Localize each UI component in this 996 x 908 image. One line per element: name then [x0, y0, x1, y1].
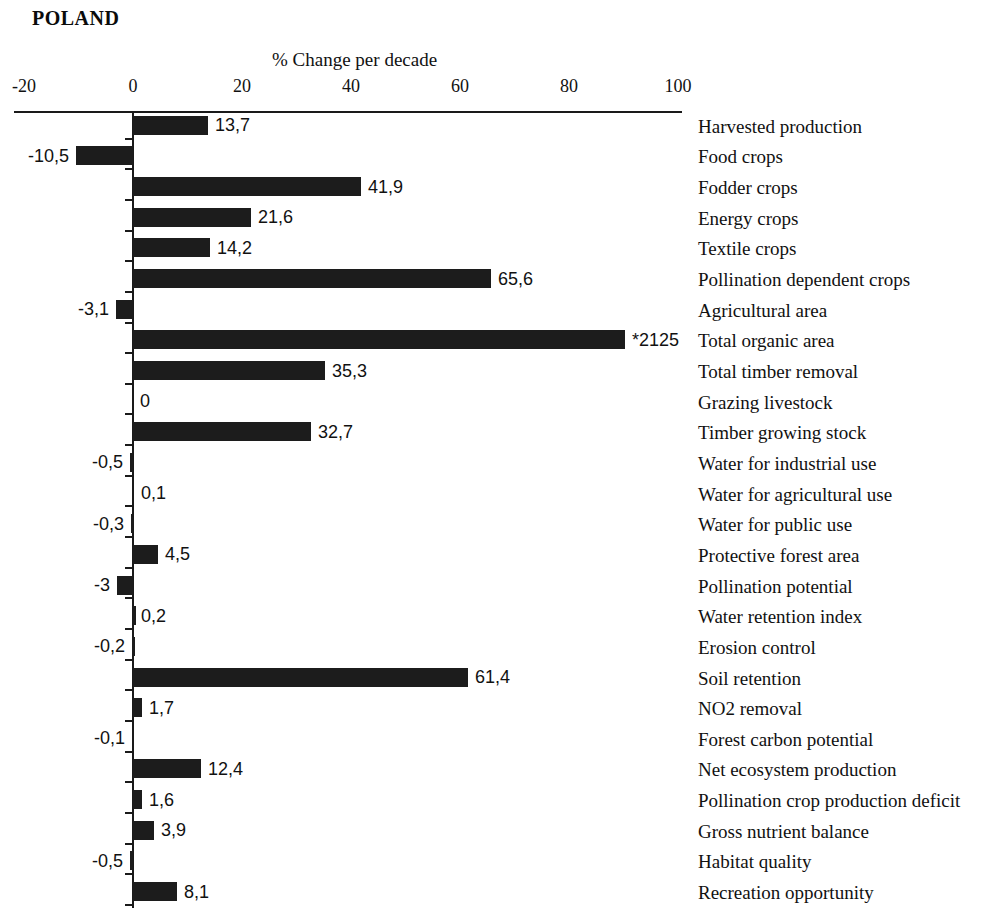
bar-value-label: 1,6	[149, 790, 174, 810]
x-tick-80: 80	[560, 76, 578, 97]
bar	[133, 330, 625, 349]
bar	[133, 545, 158, 564]
bar	[76, 146, 133, 165]
category-label: Textile crops	[698, 238, 796, 259]
row-tick	[125, 138, 134, 140]
bar-value-label: 41,9	[368, 177, 403, 197]
bar	[131, 514, 134, 533]
row-tick	[125, 628, 134, 630]
row-tick	[125, 475, 134, 477]
bar	[133, 882, 177, 901]
x-tick-40: 40	[342, 76, 360, 97]
bar-value-label: -0,1	[94, 728, 125, 748]
row-tick	[125, 751, 134, 753]
bar	[133, 821, 154, 840]
bar	[117, 576, 133, 595]
row-tick	[125, 904, 134, 906]
bar-value-label: -3,1	[78, 299, 109, 319]
row-tick	[125, 812, 134, 814]
bar	[133, 177, 361, 196]
bar-value-label: 0,1	[141, 483, 166, 503]
x-tick-0: 0	[129, 76, 138, 97]
bar-value-label: 14,2	[217, 238, 252, 258]
bar-value-label: *2125	[632, 330, 679, 350]
bar	[130, 851, 133, 870]
bar	[133, 422, 311, 441]
row-tick	[125, 168, 134, 170]
bar-value-label: 13,7	[215, 115, 250, 135]
bar-value-label: 21,6	[258, 207, 293, 227]
row-tick	[125, 291, 134, 293]
row-tick	[125, 260, 134, 262]
category-label: Food crops	[698, 146, 783, 167]
bar	[133, 238, 210, 257]
category-label: Habitat quality	[698, 851, 811, 872]
category-label: Net ecosystem production	[698, 759, 896, 780]
category-label-column: Harvested productionFood cropsFodder cro…	[698, 0, 996, 908]
bar-value-label: 65,6	[498, 269, 533, 289]
bar	[116, 300, 133, 319]
row-tick	[125, 781, 134, 783]
bar-value-label: 61,4	[475, 667, 510, 687]
bar-value-label: 8,1	[184, 882, 209, 902]
bar-value-label: 4,5	[165, 544, 190, 564]
bar-value-label: -3	[94, 575, 110, 595]
plot-area: -20020406080100 13,7-10,541,921,614,265,…	[0, 0, 688, 908]
category-label: Recreation opportunity	[698, 882, 874, 903]
category-label: Soil retention	[698, 668, 801, 689]
category-label: Pollination potential	[698, 576, 853, 597]
bar	[133, 116, 208, 135]
row-tick	[125, 536, 134, 538]
bar-value-label: -0,5	[92, 452, 123, 472]
category-label: Total timber removal	[698, 361, 858, 382]
category-label: Pollination crop production deficit	[698, 790, 960, 811]
category-label: Fodder crops	[698, 177, 798, 198]
bar	[133, 790, 142, 809]
x-axis-line	[14, 111, 682, 113]
category-label: Timber growing stock	[698, 422, 866, 443]
category-label: Water retention index	[698, 606, 862, 627]
row-tick	[125, 444, 134, 446]
x-tick-60: 60	[451, 76, 469, 97]
bar-value-label: -10,5	[28, 146, 69, 166]
bar-value-label: 35,3	[332, 361, 367, 381]
bar-value-label: -0,5	[92, 851, 123, 871]
category-label: Pollination dependent crops	[698, 269, 910, 290]
row-tick	[125, 689, 134, 691]
bar-value-label: 0,2	[141, 606, 166, 626]
bar	[133, 269, 491, 288]
bar-value-label: -0,3	[93, 514, 124, 534]
category-label: Grazing livestock	[698, 392, 833, 413]
row-tick	[125, 720, 134, 722]
x-tick-100: 100	[665, 76, 692, 97]
category-label: Forest carbon potential	[698, 729, 873, 750]
row-tick	[125, 567, 134, 569]
bar	[130, 453, 133, 472]
bar	[133, 361, 325, 380]
row-tick	[125, 230, 134, 232]
row-tick	[125, 873, 134, 875]
row-tick	[125, 505, 134, 507]
bar-value-label: 1,7	[149, 698, 174, 718]
row-tick	[125, 659, 134, 661]
category-label: Protective forest area	[698, 545, 859, 566]
bar	[133, 668, 468, 687]
x-tick-20: 20	[233, 76, 251, 97]
row-tick	[125, 322, 134, 324]
category-label: Gross nutrient balance	[698, 821, 869, 842]
bar-value-label: 32,7	[318, 422, 353, 442]
row-tick	[125, 383, 134, 385]
category-label: Water for agricultural use	[698, 484, 892, 505]
bar	[133, 759, 201, 778]
bar-value-label: -0,2	[94, 636, 125, 656]
category-label: Erosion control	[698, 637, 816, 658]
row-tick	[125, 199, 134, 201]
row-tick	[125, 597, 134, 599]
category-label: Energy crops	[698, 208, 798, 229]
row-tick	[125, 352, 134, 354]
x-tick-neg20: -20	[12, 76, 36, 97]
category-label: NO2 removal	[698, 698, 802, 719]
chart-figure: POLAND % Change per decade -200204060801…	[0, 0, 996, 908]
bar	[133, 698, 142, 717]
bar	[133, 208, 251, 227]
